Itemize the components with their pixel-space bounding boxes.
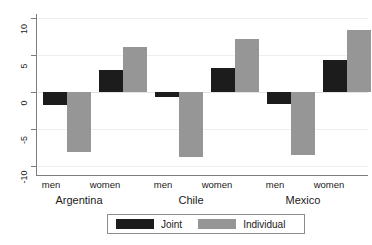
bar-mexico-women-individual [347,30,371,92]
gridline-minus-10 [38,166,368,167]
bar-chile-men-joint [155,92,179,97]
bar-chile-women-joint [211,68,235,92]
chart-legend: Joint Individual [107,214,305,234]
x-sublabel-argentina-men: men [31,179,71,190]
legend-swatch-individual-icon [198,219,236,229]
x-sublabel-mexico-women: women [307,179,351,190]
x-sublabel-chile-men: men [143,179,183,190]
bar-argentina-women-individual [123,47,147,92]
bar-argentina-women-joint [99,70,123,92]
plot-area [38,14,368,174]
gridline-10 [38,18,368,19]
legend-swatch-joint-icon [116,219,154,229]
legend-label-joint: Joint [161,219,182,230]
bar-chile-men-individual [179,92,203,157]
legend-entry-joint: Joint [116,219,182,230]
bar-mexico-women-joint [323,60,347,92]
x-axis-line [36,175,368,176]
y-tick-label-minus-5: -5 [19,129,29,151]
legend-entry-individual: Individual [198,219,285,230]
bar-argentina-men-joint [43,92,67,105]
bar-chart: 10 5 0 -5 -10 men wome [0,0,372,245]
y-tick-label-minus-10: -10 [19,166,29,188]
y-tick-label-5: 5 [19,55,29,77]
x-sublabel-mexico-men: men [255,179,295,190]
legend-label-individual: Individual [243,219,285,230]
y-axis-line [36,14,37,176]
x-grouplabel-argentina: Argentina [41,194,117,206]
y-tick-label-0: 0 [19,92,29,114]
x-sublabel-chile-women: women [195,179,239,190]
x-grouplabel-mexico: Mexico [265,194,341,206]
gridline-5 [38,55,368,56]
bar-argentina-men-individual [67,92,91,152]
y-tick-label-10: 10 [19,18,29,40]
x-grouplabel-chile: Chile [153,194,229,206]
x-sublabel-argentina-women: women [83,179,127,190]
bar-mexico-men-joint [267,92,291,104]
bar-mexico-men-individual [291,92,315,155]
bar-chile-women-individual [235,39,259,92]
